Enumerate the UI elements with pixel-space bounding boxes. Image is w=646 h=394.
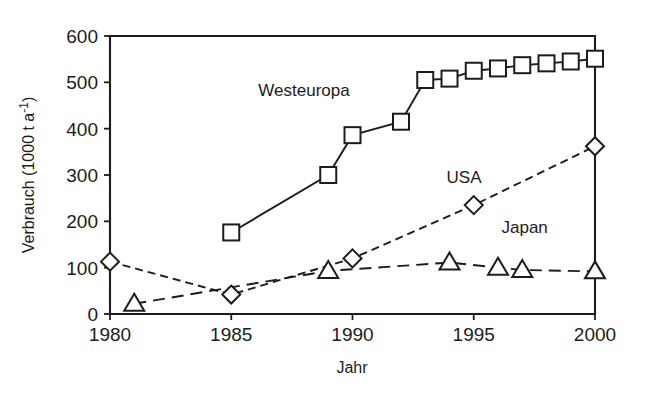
y-tick-label: 600: [66, 26, 98, 47]
data-point-westeuropa: [466, 63, 482, 79]
y-tick-label: 100: [66, 258, 98, 279]
data-point-westeuropa: [490, 60, 506, 76]
data-point-westeuropa: [563, 53, 579, 69]
data-point-westeuropa: [442, 71, 458, 87]
series-label-westeuropa: Westeuropa: [258, 81, 350, 100]
chart-figure: 0100200300400500600 19801985199019952000…: [0, 0, 646, 394]
x-axis-title: Jahr: [336, 359, 368, 376]
x-tick-label: 1980: [89, 324, 131, 345]
x-axis-tick-labels: 19801985199019952000: [89, 324, 616, 345]
x-tick-label: 1995: [453, 324, 495, 345]
y-tick-label: 300: [66, 165, 98, 186]
data-point-westeuropa: [223, 224, 239, 240]
x-tick-label: 1990: [331, 324, 373, 345]
x-tick-label: 2000: [574, 324, 616, 345]
y-axis-title: Verbrauch (1000 t a-1): [17, 97, 37, 254]
series-annotations: WesteuropaUSAJapan: [258, 81, 548, 237]
y-axis-title-exponent: -1: [17, 102, 31, 113]
y-axis-title-main: Verbrauch (1000 t a: [20, 113, 37, 254]
y-tick-label: 400: [66, 119, 98, 140]
data-point-usa: [586, 137, 604, 155]
x-tick-label: 1985: [210, 324, 252, 345]
data-point-westeuropa: [393, 114, 409, 130]
data-point-westeuropa: [539, 55, 555, 71]
data-point-westeuropa: [320, 167, 336, 183]
svg-text:Verbrauch (1000 t a-1): Verbrauch (1000 t a-1): [17, 97, 37, 254]
data-point-usa: [222, 286, 240, 304]
y-tick-label: 500: [66, 72, 98, 93]
data-point-westeuropa: [345, 127, 361, 143]
y-tick-label: 0: [87, 304, 98, 325]
data-point-usa: [344, 249, 362, 267]
series-label-japan: Japan: [502, 218, 548, 237]
y-tick-label: 200: [66, 211, 98, 232]
data-point-usa: [101, 253, 119, 271]
data-point-westeuropa: [587, 51, 603, 67]
y-axis-title-tail: ): [20, 97, 37, 102]
data-point-japan: [585, 261, 605, 278]
series-label-usa: USA: [447, 168, 483, 187]
data-point-westeuropa: [514, 57, 530, 73]
series-markers: [101, 51, 605, 311]
data-point-japan: [488, 258, 508, 275]
data-point-usa: [465, 196, 483, 214]
data-point-japan: [440, 253, 460, 270]
y-axis-tick-labels: 0100200300400500600: [66, 26, 98, 325]
data-point-westeuropa: [417, 72, 433, 88]
consumption-line-chart: 0100200300400500600 19801985199019952000…: [0, 0, 646, 394]
